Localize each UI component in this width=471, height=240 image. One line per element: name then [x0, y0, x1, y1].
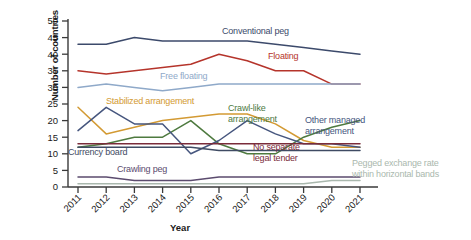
- chart-figure: Number of countries Year 051015202530354…: [0, 0, 471, 240]
- x-tick-label: 2013: [117, 192, 140, 215]
- series-label: Conventional peg: [222, 26, 289, 37]
- x-tick-label: 2014: [145, 192, 168, 215]
- x-tick-label: 2015: [173, 192, 196, 215]
- x-tick-label: 2012: [89, 192, 112, 215]
- y-tick-label: 0: [53, 181, 58, 192]
- y-tick-label: 10: [47, 148, 58, 159]
- x-tick-label: 2018: [258, 192, 281, 215]
- series-line: [78, 54, 360, 84]
- x-axis-title: Year: [170, 222, 190, 233]
- x-tick-label: 2017: [230, 192, 253, 215]
- series-label: Stabilized arrangement: [106, 96, 194, 107]
- series-label: Floating: [268, 51, 298, 62]
- series-line: [78, 180, 360, 183]
- y-axis-title: Number of countries: [49, 0, 60, 126]
- series-label: Other managedarrangement: [305, 115, 365, 136]
- series-label: Crawl-likearrangement: [228, 103, 277, 124]
- x-tick-label: 2021: [343, 192, 366, 215]
- x-tick-label: 2020: [314, 192, 337, 215]
- series-label: Currency board: [68, 147, 127, 158]
- x-tick-label: 2019: [286, 192, 309, 215]
- x-tick-label: 2016: [202, 192, 225, 215]
- series-label: No separatelegal tender: [253, 142, 300, 163]
- series-label: Crawling peg: [117, 164, 167, 175]
- series-line: [78, 177, 360, 180]
- y-tick-label: 15: [47, 132, 58, 143]
- series-line: [78, 84, 360, 91]
- series-label: Free floating: [160, 71, 207, 82]
- y-tick-label: 5: [53, 165, 58, 176]
- x-tick-label: 2011: [61, 192, 83, 214]
- series-label: Pegged exchange ratewithin horizontal ba…: [352, 158, 439, 179]
- series-line: [78, 38, 360, 55]
